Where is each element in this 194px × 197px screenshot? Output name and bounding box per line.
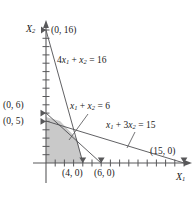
eq2-part-plus: + bbox=[77, 101, 87, 111]
point-label-4-0: (4, 0) bbox=[62, 169, 83, 179]
equation-label-x1-plus-3x2-eq-15: x1 + 3x2 = 15 bbox=[106, 121, 155, 131]
x-axis-label-sub: 1 bbox=[182, 175, 185, 182]
eq2-part-rhs: = 6 bbox=[95, 101, 110, 111]
marker-point-0-5 bbox=[41, 118, 47, 125]
eq3-part-plus: + 3 bbox=[113, 120, 128, 130]
leader-line-x1-plus-x2-eq-6 bbox=[69, 114, 88, 140]
y-axis-label-sub: 2 bbox=[32, 27, 35, 34]
leader-line-x1-plus-3x2-eq-15 bbox=[127, 132, 135, 148]
feasible-region-shading bbox=[46, 117, 83, 163]
equation-label-4x1-plus-x2-eq-16: 4x1 + x2 = 16 bbox=[57, 56, 106, 66]
x-axis-label: X1 bbox=[176, 172, 185, 182]
marker-point-0-6 bbox=[41, 110, 47, 117]
point-label-15-0: (15, 0) bbox=[150, 147, 175, 157]
equation-label-x1-plus-x2-eq-6: x1 + x2 = 6 bbox=[70, 102, 110, 112]
eq1-part-plus: + bbox=[69, 55, 79, 65]
figure-canvas: X2 X1 (0, 16) (0, 6) (0, 5) (4, 0) (6, 0… bbox=[0, 0, 194, 197]
point-label-0-6: (0, 6) bbox=[3, 101, 24, 111]
y-axis-arrowhead bbox=[43, 20, 49, 28]
eq1-part-rhs: = 16 bbox=[87, 55, 107, 65]
point-label-6-0: (6, 0) bbox=[94, 169, 115, 179]
marker-point-6-0 bbox=[98, 158, 105, 164]
point-label-0-5: (0, 5) bbox=[3, 117, 24, 127]
eq3-part-rhs: = 15 bbox=[136, 120, 156, 130]
y-axis-label: X2 bbox=[26, 24, 35, 34]
point-label-0-16: (0, 16) bbox=[51, 26, 76, 36]
